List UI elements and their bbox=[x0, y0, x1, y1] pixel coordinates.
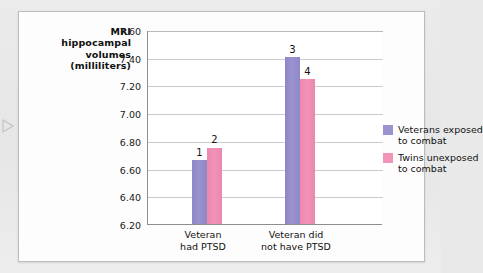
legend-label-veterans-exposed-line-1: Veterans exposed bbox=[398, 124, 483, 135]
y-tick-label-740: 7.40 bbox=[107, 54, 141, 65]
y-tick-label-680: 6.80 bbox=[107, 137, 141, 148]
legend-label-twins-unexposed: Twins unexposed to combat bbox=[398, 152, 479, 174]
legend-label-twins-unexposed-line-2: to combat bbox=[398, 163, 446, 174]
legend-item-twins-unexposed[interactable]: Twins unexposed to combat bbox=[383, 152, 479, 174]
y-tick-label-660: 6.60 bbox=[107, 165, 141, 176]
bar-series1-group2[interactable] bbox=[285, 57, 300, 224]
bar-label-1: 1 bbox=[188, 147, 212, 158]
left-pointer-arrow bbox=[2, 118, 16, 134]
y-axis-title-line-2: hippocampal bbox=[25, 37, 131, 48]
legend-swatch-purple-icon bbox=[383, 125, 393, 135]
y-tick-label-700: 7.00 bbox=[107, 109, 141, 120]
gridline-640 bbox=[148, 197, 383, 198]
gridline-760 bbox=[148, 31, 383, 32]
gridline-660 bbox=[148, 170, 383, 171]
bar-series2-group1[interactable] bbox=[207, 148, 222, 224]
x-tick-label-group2: Veteran did not have PTSD bbox=[241, 229, 351, 252]
plot-area: 1 2 3 4 bbox=[147, 31, 382, 225]
legend-swatch-pink-icon bbox=[383, 153, 393, 163]
chart-card: MRI hippocampal volumes (milliliters) 7.… bbox=[18, 11, 425, 262]
legend-item-veterans-exposed[interactable]: Veterans exposed to combat bbox=[383, 124, 483, 146]
bar-chart: MRI hippocampal volumes (milliliters) 7.… bbox=[19, 12, 426, 263]
bar-series1-group1[interactable] bbox=[192, 160, 207, 224]
y-tick-label-760: 7.60 bbox=[107, 26, 141, 37]
x-tick-label-group2-line-2: not have PTSD bbox=[241, 241, 351, 253]
bar-label-3: 3 bbox=[281, 44, 305, 55]
bar-label-2: 2 bbox=[203, 134, 227, 145]
bar-label-4: 4 bbox=[296, 66, 320, 77]
gridline-680 bbox=[148, 142, 383, 143]
legend-label-veterans-exposed-line-2: to combat bbox=[398, 135, 446, 146]
legend-label-twins-unexposed-line-1: Twins unexposed bbox=[398, 152, 479, 163]
y-tick-label-640: 6.40 bbox=[107, 192, 141, 203]
x-tick-label-group2-line-1: Veteran did bbox=[241, 229, 351, 241]
y-tick-label-720: 7.20 bbox=[107, 81, 141, 92]
gridline-740 bbox=[148, 59, 383, 60]
gridline-700 bbox=[148, 114, 383, 115]
y-tick-label-620: 6.20 bbox=[107, 220, 141, 231]
gridline-720 bbox=[148, 86, 383, 87]
legend-label-veterans-exposed: Veterans exposed to combat bbox=[398, 124, 483, 146]
bar-series2-group2[interactable] bbox=[300, 79, 315, 224]
